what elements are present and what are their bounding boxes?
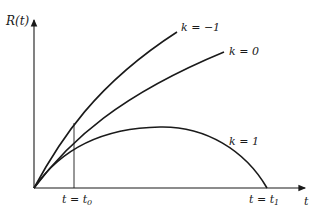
label-k-1: k = 1 [229, 135, 259, 148]
label-k-minus-1: k = −1 [181, 21, 220, 34]
cosmology-diagram: R(t) t k = −1 k = 0 k = 1 t = t0 t = t1 [0, 0, 322, 210]
label-t0: t = t0 [62, 193, 92, 207]
label-t1: t = t1 [249, 193, 279, 207]
label-k-0: k = 0 [229, 45, 259, 58]
x-axis-label: t [304, 195, 309, 208]
curve-k-0 [34, 52, 224, 188]
y-axis-label: R(t) [5, 14, 30, 28]
curve-k-minus-1 [34, 32, 177, 188]
